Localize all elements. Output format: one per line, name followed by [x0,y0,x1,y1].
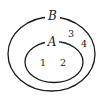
set-a-label: A [47,35,57,49]
element-4: 4 [81,38,87,49]
set-b-label: B [47,9,57,23]
element-3: 3 [68,28,74,39]
venn-diagram: B A 3 4 1 2 [0,0,101,101]
element-1: 1 [40,57,46,68]
element-2: 2 [60,57,66,68]
set-b-ellipse [8,17,95,91]
